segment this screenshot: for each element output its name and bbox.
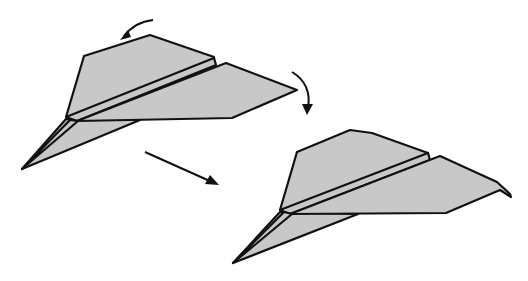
paper-airplane-diagram — [0, 0, 528, 281]
airplane-after — [233, 130, 511, 263]
airplane-before — [22, 35, 297, 169]
transition-arrow — [145, 152, 212, 182]
arrowhead-icon — [302, 104, 313, 115]
